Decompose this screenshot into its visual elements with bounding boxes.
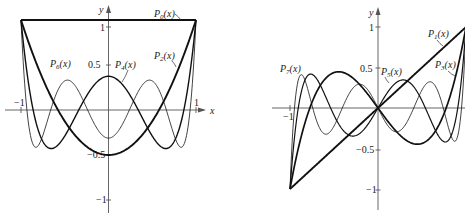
svg-text:P7(x): P7(x): [279, 63, 301, 76]
right-y-axis-arrow-icon: [376, 7, 381, 15]
left-y-tick-0.5: 0.5: [88, 59, 101, 70]
right-y-tick-0.5: 0.5: [360, 63, 373, 74]
right-y-tick-neg1: −1: [366, 184, 377, 195]
label-P3: P3(x): [434, 59, 456, 76]
left-x-tick-1: 1: [194, 97, 199, 108]
left-y-axis-label: y: [98, 4, 104, 15]
label-P7: P7(x): [279, 63, 301, 76]
right-y-tick-1: 1: [369, 22, 374, 33]
svg-text:P6(x): P6(x): [49, 58, 71, 71]
svg-text:P1(x): P1(x): [427, 28, 449, 41]
svg-text:P4(x): P4(x): [114, 59, 136, 72]
left-x-tick-neg1: −1: [14, 97, 25, 108]
svg-text:P3(x): P3(x): [434, 59, 456, 72]
legendre-figure: y x 1 0.5 −0.5 −1 −1 1 P0(x) P2(x) P4(x)…: [0, 0, 465, 216]
left-x-axis-label: x: [209, 105, 215, 116]
right-y-axis-label: y: [368, 7, 374, 18]
left-y-axis-arrow-icon: [106, 5, 111, 13]
left-y-tick-1: 1: [100, 22, 105, 33]
label-P6: P6(x): [49, 58, 71, 71]
right-chart: y 1 0.5 −0.5 −1 −1 P1(x) P3(x) P5(x) P7(…: [272, 7, 465, 210]
right-x-tick-neg1: −1: [283, 111, 294, 122]
right-y-tick-neg0.5: −0.5: [356, 144, 374, 155]
svg-text:P5(x): P5(x): [380, 66, 402, 79]
left-y-tick-neg1: −1: [96, 194, 107, 205]
left-x-axis-arrow-icon: [198, 108, 206, 113]
left-chart: y x 1 0.5 −0.5 −1 −1 1 P0(x) P2(x) P4(x)…: [5, 4, 215, 213]
label-P4: P4(x): [114, 59, 136, 82]
label-P2: P2(x): [153, 50, 176, 67]
label-P1: P1(x): [427, 28, 449, 46]
